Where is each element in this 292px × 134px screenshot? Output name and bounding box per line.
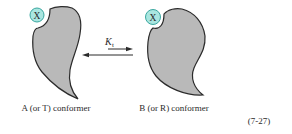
forward-arrowhead-icon — [126, 47, 133, 51]
reverse-arrowhead-icon — [82, 53, 89, 57]
ligand-x-a-label: X — [34, 11, 41, 21]
conformer-b-group: X — [146, 9, 206, 95]
conformer-a-group: X — [30, 7, 81, 99]
equilibrium-arrows: K t — [82, 36, 133, 57]
conformer-a-label: A (or T) conformer — [21, 103, 90, 113]
conformer-equilibrium-diagram: X K t X A (or T) conformer B (or R) conf… — [0, 0, 292, 134]
conformer-b-label: B (or R) conformer — [139, 103, 209, 113]
equation-number: (7-27) — [248, 116, 271, 126]
equilibrium-constant-subscript: t — [112, 41, 114, 49]
ligand-x-b-label: X — [150, 13, 157, 23]
